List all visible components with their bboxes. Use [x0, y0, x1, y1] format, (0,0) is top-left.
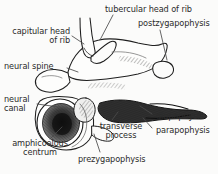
label-parapophysis: parapophysis — [156, 126, 218, 135]
amphicoelous-cup-core — [52, 113, 72, 135]
postzygapophysis-knob — [153, 61, 174, 78]
label-diapophysis: diapophysis — [156, 112, 218, 121]
label-neural-canal: neural canal — [4, 95, 44, 114]
label-capitular-head-of-rib: capitular head of rib — [2, 27, 70, 46]
leader-tubercular-head-of-rib — [100, 15, 113, 40]
label-postzygapophysis: postzygapophysis — [138, 19, 218, 28]
label-amphicoelous-centrum: amphicoelous centrum — [2, 139, 78, 158]
label-tubercular-head-of-rib: tubercular head of rib — [105, 5, 217, 14]
label-prezygapophysis: prezygapophysis — [78, 155, 158, 164]
label-transverse-process: transverse process — [92, 122, 150, 141]
neural-spine-shape — [35, 69, 70, 92]
label-neural-spine: neural spine — [4, 62, 82, 71]
arch-shading-lower — [88, 83, 126, 90]
anatomical-figure: capitular head of rib neural spine neura… — [0, 0, 218, 174]
